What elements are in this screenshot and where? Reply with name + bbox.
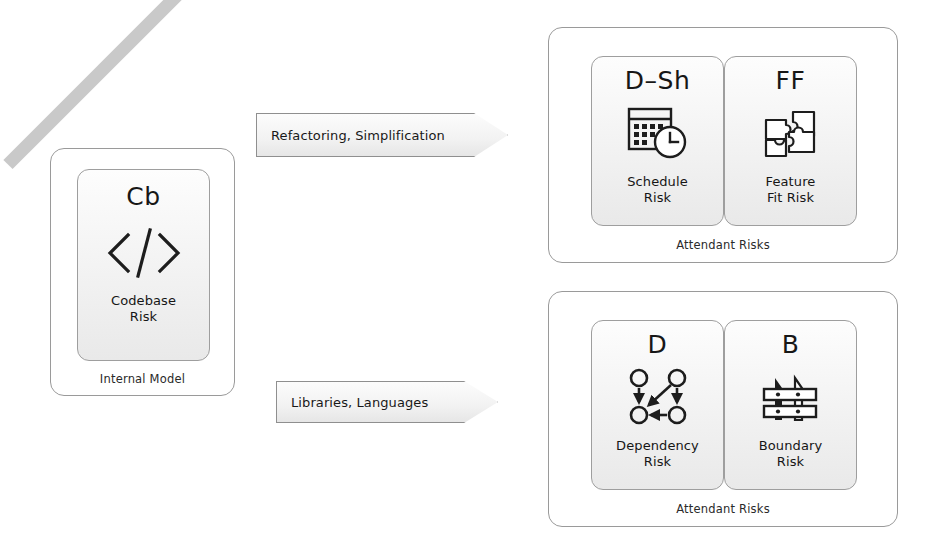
internal-model-label: Internal Model <box>51 372 234 386</box>
card-title-feature-fit-line2: Fit Risk <box>767 190 814 205</box>
card-abbr-boundary: B <box>782 332 800 357</box>
arrow-refactoring[interactable]: Refactoring, Simplification <box>256 113 508 157</box>
card-abbr-codebase: Cb <box>126 184 160 209</box>
card-title-codebase-line2: Risk <box>130 309 157 324</box>
attendant-risks-container-top: D–Sh <box>548 27 898 263</box>
attendant-risks-label-top: Attendant Risks <box>549 238 897 252</box>
code-brackets-icon <box>106 225 182 281</box>
card-feature-fit-risk[interactable]: FF Feature Fit Risk <box>724 56 857 226</box>
card-title-schedule: Schedule Risk <box>627 174 688 207</box>
puzzle-pieces-icon <box>760 102 822 164</box>
fence-icon <box>761 366 821 428</box>
arrow-refactoring-label: Refactoring, Simplification <box>257 128 445 143</box>
attendant-risks-label-bottom: Attendant Risks <box>549 502 897 516</box>
dependency-graph-icon <box>625 366 691 428</box>
card-title-codebase: Codebase Risk <box>111 293 176 326</box>
attendant-risks-container-bottom: D <box>548 291 898 527</box>
card-title-boundary-line2: Risk <box>777 454 804 469</box>
card-abbr-schedule: D–Sh <box>625 68 690 93</box>
card-title-schedule-line1: Schedule <box>627 174 688 189</box>
arrow-libraries-label: Libraries, Languages <box>277 395 428 410</box>
codebase-strikethrough-icon <box>3 0 189 169</box>
card-boundary-risk[interactable]: B Boundary Ris <box>724 320 857 490</box>
card-title-dependency-line2: Risk <box>644 454 671 469</box>
card-codebase-risk[interactable]: Cb Codebase Risk <box>77 169 210 361</box>
card-title-codebase-line1: Codebase <box>111 293 176 308</box>
card-title-feature-fit: Feature Fit Risk <box>766 174 816 207</box>
internal-model-container: Cb Codebase Risk Internal Model <box>50 148 235 396</box>
card-schedule-risk[interactable]: D–Sh <box>591 56 724 226</box>
card-abbr-dependency: D <box>648 332 668 357</box>
card-title-schedule-line2: Risk <box>644 190 671 205</box>
calendar-clock-icon <box>626 102 690 164</box>
card-dependency-risk[interactable]: D <box>591 320 724 490</box>
card-title-dependency-line1: Dependency <box>616 438 699 453</box>
card-title-boundary: Boundary Risk <box>759 438 822 471</box>
card-title-boundary-line1: Boundary <box>759 438 822 453</box>
arrow-libraries[interactable]: Libraries, Languages <box>276 381 498 423</box>
card-abbr-feature-fit: FF <box>776 68 806 93</box>
card-title-feature-fit-line1: Feature <box>766 174 816 189</box>
card-title-dependency: Dependency Risk <box>616 438 699 471</box>
